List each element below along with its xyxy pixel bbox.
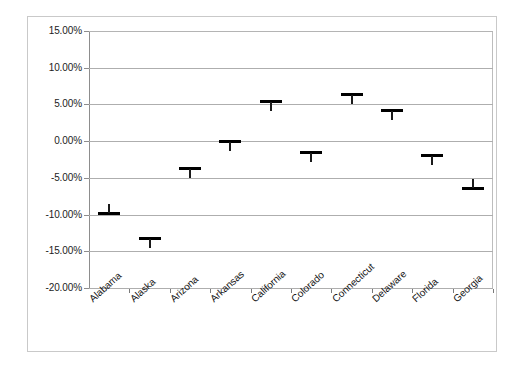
gridline-1500 [89,31,493,32]
y-axis-label: 15.00% [28,26,82,36]
y-tick [84,31,89,32]
y-tick [84,104,89,105]
data-marker-arkansas [219,140,241,143]
gridline-500 [89,104,493,105]
data-marker-arizona [179,167,201,170]
marker-stem [351,95,353,104]
data-marker-delaware [381,109,403,112]
gridline--500 [89,178,493,179]
marker-stem [189,169,191,178]
y-axis-label: 0.00% [28,136,82,146]
marker-stem [310,153,312,162]
marker-stem [229,142,231,151]
y-axis-label: -20.00% [28,283,82,293]
data-marker-florida [421,154,443,157]
y-tick [84,288,89,289]
data-marker-alabama [98,212,120,215]
y-axis-label: 10.00% [28,63,82,73]
gridline--1500 [89,251,493,252]
marker-stem [149,239,151,248]
y-axis-label-group: 15.00%10.00%5.00%0.00%-5.00%-10.00%-15.0… [26,0,82,373]
data-marker-georgia [462,187,484,190]
marker-stem [108,204,110,213]
marker-stem [472,179,474,188]
data-marker-colorado [300,151,322,154]
y-tick [84,178,89,179]
y-tick [84,251,89,252]
y-tick [84,141,89,142]
x-tick [493,289,494,293]
data-marker-connecticut [341,93,363,96]
x-tick [129,289,130,293]
gridline--1000 [89,215,493,216]
y-tick [84,215,89,216]
y-axis-label: -5.00% [28,173,82,183]
y-axis-label: 5.00% [28,99,82,109]
marker-stem [391,111,393,120]
x-tick [331,289,332,293]
marker-stem [431,156,433,165]
y-axis-label: -15.00% [28,246,82,256]
marker-stem [270,102,272,111]
gridline-000 [89,141,493,142]
y-axis-label: -10.00% [28,210,82,220]
y-tick [84,68,89,69]
gridline-1000 [89,68,493,69]
data-marker-california [260,100,282,103]
data-marker-alaska [139,237,161,240]
